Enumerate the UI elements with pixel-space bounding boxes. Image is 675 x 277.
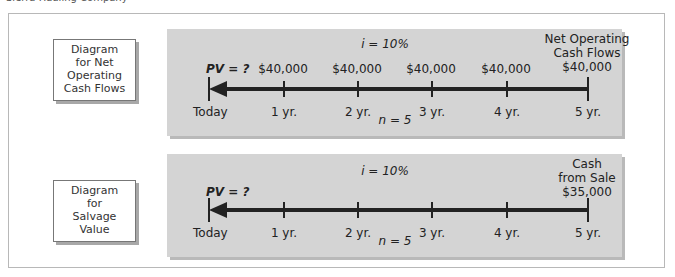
label-net-operating-cash-flows: Diagram for Net Operating Cash Flows <box>53 39 136 101</box>
label-line: Operating <box>54 69 135 82</box>
label-line: Diagram <box>54 184 135 197</box>
timeline-label: Today <box>193 105 228 119</box>
header-line: Cash Flows <box>553 46 620 60</box>
timeline-label: 3 yr. <box>419 105 445 119</box>
timeline-label: 5 yr. <box>575 105 601 119</box>
timeline-arrow-line <box>215 87 589 91</box>
cash-flow-amount: $40,000 <box>258 62 308 76</box>
tick-year-end <box>587 77 589 101</box>
arrow-left-icon <box>209 202 227 218</box>
timeline-label: 1 yr. <box>271 226 297 240</box>
tick-year <box>431 81 433 97</box>
tick-year <box>506 81 508 97</box>
tick-year <box>357 81 359 97</box>
tick-year-end <box>587 198 589 222</box>
timeline-label: 2 yr. <box>345 226 371 240</box>
timeline-panel-salvage: i = 10% Cash from Sale $35,000 PV = ? To… <box>167 154 622 257</box>
tick-year <box>357 202 359 218</box>
interest-rate: i = 10% <box>361 37 409 51</box>
timeline-arrow-line <box>215 208 589 212</box>
label-salvage-value: Diagram for Salvage Value <box>53 180 136 242</box>
interest-rate: i = 10% <box>361 164 409 178</box>
salvage-amount: $35,000 <box>562 185 612 199</box>
label-line: Cash Flows <box>54 82 135 95</box>
figure-caption: Sierra Hauling Company <box>6 0 128 3</box>
header-line: from Sale <box>558 171 615 185</box>
timeline-label: Today <box>193 226 228 240</box>
cash-flow-amount: $40,000 <box>406 62 456 76</box>
tick-year <box>283 202 285 218</box>
tick-today <box>208 77 210 101</box>
timeline-label: 1 yr. <box>271 105 297 119</box>
cash-flow-amount: $40,000 <box>332 62 382 76</box>
cash-flow-amount: $40,000 <box>562 60 612 74</box>
label-line: for <box>54 197 135 210</box>
label-line: Salvage <box>54 210 135 223</box>
header-line: Cash <box>572 157 602 171</box>
pv-unknown: PV = ? <box>206 62 249 76</box>
label-line: Diagram <box>54 43 135 56</box>
tick-year <box>506 202 508 218</box>
timeline-label: 4 yr. <box>494 226 520 240</box>
header-line: Net Operating <box>545 32 630 46</box>
timeline-label: 3 yr. <box>419 226 445 240</box>
tick-year <box>431 202 433 218</box>
timeline-panel-net-operating: i = 10% Net Operating Cash Flows PV = ? … <box>167 29 622 136</box>
periods: n = 5 <box>379 234 412 248</box>
timeline-label: 5 yr. <box>575 226 601 240</box>
cash-flow-amount: $40,000 <box>481 62 531 76</box>
timeline-label: 2 yr. <box>345 105 371 119</box>
tick-today <box>208 198 210 222</box>
timeline-label: 4 yr. <box>494 105 520 119</box>
pv-unknown: PV = ? <box>206 185 249 199</box>
label-line: Value <box>54 223 135 236</box>
periods: n = 5 <box>379 113 412 127</box>
tick-year <box>283 81 285 97</box>
label-line: for Net <box>54 56 135 69</box>
arrow-left-icon <box>209 81 227 97</box>
